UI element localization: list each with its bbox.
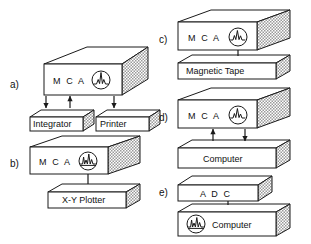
panel-a-mca-label: M C A bbox=[53, 76, 86, 86]
panel-a-integrator-label: Integrator bbox=[33, 119, 72, 129]
panel-b-xy-plotter-label: X-Y Plotter bbox=[62, 195, 105, 205]
panel-d: d) M C A Computer bbox=[159, 88, 290, 168]
panel-c-letter: c) bbox=[159, 34, 167, 45]
panel-d-computer-label: Computer bbox=[203, 154, 243, 164]
panel-b-mca-label: M C A bbox=[39, 157, 72, 167]
spectrum-scope-icon bbox=[229, 28, 247, 46]
panel-a-letter: a) bbox=[10, 79, 19, 90]
spectrum-scope-icon bbox=[79, 152, 97, 170]
spectrum-scope-icon bbox=[92, 71, 110, 89]
panel-e-block-adc: A D C bbox=[178, 176, 272, 201]
spectrum-scope-icon bbox=[187, 215, 205, 233]
panel-d-mca-label: M C A bbox=[188, 111, 221, 121]
panel-d-block-computer: Computer bbox=[178, 140, 290, 168]
block-diagram: a) M C A Integrator Printer bbox=[0, 0, 311, 244]
panel-c-block-magnetic-tape: Magnetic Tape bbox=[178, 55, 290, 79]
panel-a-block-mca: M C A bbox=[44, 47, 148, 95]
panel-b-block-xy-plotter: X-Y Plotter bbox=[48, 184, 140, 208]
panel-a: a) M C A Integrator Printer bbox=[10, 47, 160, 131]
panel-d-letter: d) bbox=[159, 112, 168, 123]
panel-c-magnetic-tape-label: Magnetic Tape bbox=[186, 66, 244, 76]
panel-e-letter: e) bbox=[159, 187, 168, 198]
panel-c-mca-label: M C A bbox=[188, 33, 221, 43]
spectrum-scope-icon bbox=[229, 106, 247, 124]
panel-c-block-mca: M C A bbox=[178, 10, 290, 50]
panel-a-printer-label: Printer bbox=[100, 119, 127, 129]
panel-c: c) M C A Magnetic Tape bbox=[159, 10, 290, 79]
panel-b-block-mca: M C A bbox=[30, 136, 140, 174]
panel-b: b) M C A X-Y Plotter bbox=[10, 136, 140, 208]
panel-e: e) A D C Computer bbox=[159, 176, 290, 236]
panel-e-block-computer: Computer bbox=[178, 204, 290, 236]
panel-b-letter: b) bbox=[10, 158, 19, 169]
panel-a-block-printer: Printer bbox=[96, 110, 160, 131]
panel-e-adc-label: A D C bbox=[200, 189, 232, 199]
panel-a-block-integrator: Integrator bbox=[30, 110, 94, 131]
panel-d-block-mca: M C A bbox=[178, 88, 290, 128]
panel-e-computer-label: Computer bbox=[212, 220, 252, 230]
